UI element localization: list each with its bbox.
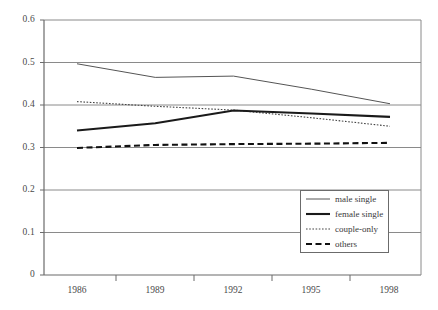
line-chart: 0.6 0.5 0.4 0.3 0.2 0.1 0 1986 1989 1992… xyxy=(0,0,438,310)
legend-label-couple-only: couple-only xyxy=(335,224,378,234)
y-tick-label-0: 0 xyxy=(5,269,35,279)
y-tick-label-0-5: 0.5 xyxy=(5,57,35,67)
x-tick-label-1986: 1986 xyxy=(55,285,99,295)
legend-item-male-single: male single xyxy=(301,191,388,206)
series-line-female-single xyxy=(77,111,390,131)
legend-label-female-single: female single xyxy=(335,209,383,219)
y-tick-label-0-4: 0.4 xyxy=(5,99,35,109)
series-line-male-single xyxy=(77,64,390,104)
x-tick-label-1995: 1995 xyxy=(289,285,333,295)
plot-canvas xyxy=(0,0,438,310)
y-tick-label-0-3: 0.3 xyxy=(5,142,35,152)
y-tick-label-0-6: 0.6 xyxy=(5,14,35,24)
legend-label-male-single: male single xyxy=(335,194,376,204)
legend-swatch-dotted-icon xyxy=(305,224,331,234)
legend-label-others: others xyxy=(335,239,357,249)
x-tick-label-1992: 1992 xyxy=(211,285,255,295)
legend-item-female-single: female single xyxy=(301,206,388,221)
x-tick-label-1998: 1998 xyxy=(367,285,411,295)
x-tick-label-1989: 1989 xyxy=(133,285,177,295)
legend-swatch-solid-thin-icon xyxy=(305,194,331,204)
y-tick-label-0-2: 0.2 xyxy=(5,184,35,194)
chart-legend: male single female single couple-only xyxy=(300,190,389,253)
legend-item-others: others xyxy=(301,236,388,251)
legend-swatch-dashed-icon xyxy=(305,239,331,249)
legend-item-couple-only: couple-only xyxy=(301,221,388,236)
series-group xyxy=(77,64,390,148)
legend-swatch-solid-thick-icon xyxy=(305,209,331,219)
x-axis-ticks xyxy=(116,275,350,281)
y-tick-label-0-1: 0.1 xyxy=(5,227,35,237)
